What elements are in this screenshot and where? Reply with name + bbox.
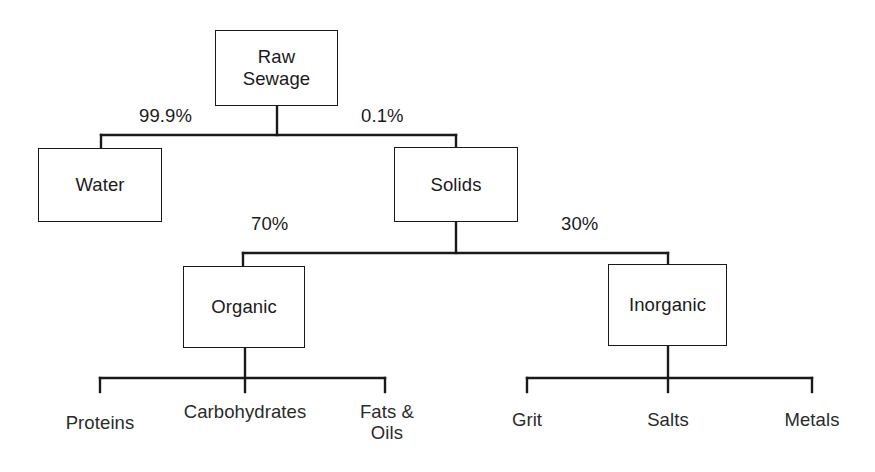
edge-label-organic-percent: 70%	[249, 213, 290, 235]
node-raw-sewage[interactable]: Raw Sewage	[215, 30, 338, 106]
node-organic[interactable]: Organic	[183, 266, 305, 348]
node-water-label: Water	[75, 174, 124, 196]
edge-label-water-percent: 99.9%	[137, 105, 194, 127]
node-water[interactable]: Water	[38, 148, 162, 222]
node-solids[interactable]: Solids	[394, 147, 518, 222]
sewage-composition-diagram: Raw Sewage Water Solids Organic Inorgani…	[0, 0, 875, 472]
edge-label-inorganic-percent: 30%	[559, 213, 600, 235]
leaf-label-grit: Grit	[512, 409, 542, 430]
leaf-label-proteins: Proteins	[66, 412, 135, 433]
node-organic-label: Organic	[211, 296, 276, 318]
edge-label-solids-percent: 0.1%	[359, 105, 406, 127]
leaf-label-salts: Salts	[647, 409, 689, 430]
leaf-label-fats-oils: Fats & Oils	[360, 401, 414, 444]
node-solids-label: Solids	[431, 174, 482, 196]
connector-lines	[0, 0, 875, 472]
node-raw-sewage-label: Raw Sewage	[243, 46, 310, 90]
leaf-label-carbohydrates: Carbohydrates	[184, 401, 307, 422]
node-inorganic-label: Inorganic	[629, 294, 706, 316]
leaf-label-metals: Metals	[784, 409, 839, 430]
node-inorganic[interactable]: Inorganic	[608, 264, 727, 346]
